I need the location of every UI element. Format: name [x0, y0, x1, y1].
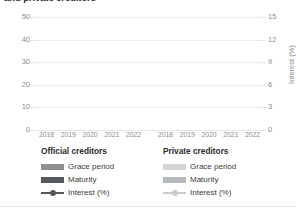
y-axis-left-tick-mark — [30, 130, 34, 131]
legend-swatch-icon — [41, 173, 64, 186]
y-axis-left-tick-label: 20 — [22, 81, 30, 89]
y-axis-right-tick-mark — [262, 17, 266, 18]
legend-line-marker-icon — [163, 186, 186, 199]
y-axis-right-title: Interest (%) — [287, 45, 296, 84]
legend-item[interactable]: Interest (%) — [163, 186, 236, 199]
legend-item-label: Interest (%) — [68, 188, 109, 198]
legend-swatch-icon — [163, 164, 186, 170]
legend-swatch-icon — [163, 177, 186, 183]
x-axis-official-creditors: 20182019202020212022 — [37, 131, 143, 142]
gridline — [34, 40, 262, 41]
legend-item[interactable]: Grace period — [163, 160, 236, 173]
y-axis-right-tick-label: 3 — [268, 103, 272, 111]
plot-area — [34, 17, 262, 130]
y-axis-left-title: Years — [0, 61, 1, 80]
y-axis-right-tick-mark — [262, 130, 266, 131]
legend-swatch-icon — [163, 160, 186, 173]
legend-row: Official creditors Grace periodMaturityI… — [0, 146, 296, 204]
y-axis-right-tick-mark — [262, 40, 266, 41]
x-axis-tick-label: 2019 — [178, 131, 197, 142]
y-axis-right-tick-label: 9 — [268, 58, 272, 66]
x-axis-tick-label: 2022 — [124, 131, 143, 142]
legend-marker-dot-icon — [50, 190, 56, 196]
gridline — [34, 62, 262, 63]
chart-title-container: and private creditors — [0, 0, 296, 17]
legend-official-heading: Official creditors — [41, 146, 114, 156]
y-axis-left-tick-label: 0 — [26, 126, 30, 134]
legend-item-label: Interest (%) — [190, 188, 231, 198]
y-axis-left-tick-label: 50 — [22, 13, 30, 21]
chart-title: and private creditors — [4, 0, 96, 5]
x-axis-tick-label: 2021 — [102, 131, 121, 142]
y-axis-left-tick-mark — [30, 85, 34, 86]
y-axis-left-tick-mark — [30, 17, 34, 18]
y-axis-left-tick-label: 30 — [22, 58, 30, 66]
x-axis-private-creditors: 20182019202020212022 — [156, 131, 262, 142]
y-axis-right-tick-mark — [262, 62, 266, 63]
legend-swatch-icon — [163, 173, 186, 186]
legend-swatch-icon — [41, 164, 64, 170]
legend-official-items: Grace periodMaturityInterest (%) — [41, 160, 114, 199]
legend-item[interactable]: Maturity — [41, 173, 114, 186]
y-axis-right-tick-mark — [262, 85, 266, 86]
x-axis-tick-label: 2020 — [81, 131, 100, 142]
legend-line-marker-icon — [41, 186, 64, 199]
legend-private-creditors: Private creditors Grace periodMaturityIn… — [163, 146, 236, 199]
y-axis-left-tick-label: 40 — [22, 36, 30, 44]
y-axis-right-tick-label: 6 — [268, 81, 272, 89]
x-axis-tick-label: 2019 — [59, 131, 78, 142]
x-axis-tick-label: 2020 — [200, 131, 219, 142]
legend-item-label: Maturity — [68, 175, 96, 185]
legend-swatch-icon — [41, 177, 64, 183]
gridline — [34, 17, 262, 18]
y-axis-left-tick-mark — [30, 107, 34, 108]
legend-official-creditors: Official creditors Grace periodMaturityI… — [41, 146, 114, 199]
x-axis-tick-label: 2018 — [37, 131, 56, 142]
legend-swatch-icon — [41, 160, 64, 173]
x-axis-tick-label: 2018 — [156, 131, 175, 142]
x-axis-tick-label: 2022 — [243, 131, 262, 142]
gridline — [34, 85, 262, 86]
legend-private-heading: Private creditors — [163, 146, 236, 156]
legend-private-items: Grace periodMaturityInterest (%) — [163, 160, 236, 199]
y-axis-left-tick-mark — [30, 62, 34, 63]
legend-item-label: Maturity — [190, 175, 218, 185]
y-axis-right-tick-mark — [262, 107, 266, 108]
y-axis-left-tick-mark — [30, 40, 34, 41]
legend-item[interactable]: Maturity — [163, 173, 236, 186]
footer-divider — [0, 206, 296, 207]
legend-item[interactable]: Grace period — [41, 160, 114, 173]
y-axis-right-tick-label: 15 — [268, 13, 276, 21]
y-axis-right-tick-label: 0 — [268, 126, 272, 134]
x-axis-tick-label: 2021 — [221, 131, 240, 142]
legend-item[interactable]: Interest (%) — [41, 186, 114, 199]
legend-item-label: Grace period — [190, 162, 236, 172]
legend-marker-dot-icon — [172, 190, 178, 196]
y-axis-right-tick-label: 12 — [268, 36, 276, 44]
legend-item-label: Grace period — [68, 162, 114, 172]
gridline — [34, 107, 262, 108]
y-axis-left-tick-label: 10 — [22, 103, 30, 111]
